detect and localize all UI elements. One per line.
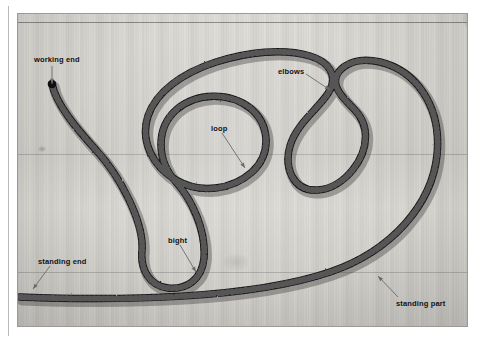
label-standing-end: standing end	[38, 257, 86, 266]
figure-canvas: working end elbows loop bight standing e…	[0, 0, 485, 346]
label-bight: bight	[168, 236, 187, 245]
label-standing-part: standing part	[396, 299, 445, 308]
label-elbows: elbows	[278, 67, 304, 76]
label-loop: loop	[211, 124, 227, 133]
label-working-end: working end	[34, 55, 80, 64]
annotation-labels: working end elbows loop bight standing e…	[0, 0, 485, 346]
